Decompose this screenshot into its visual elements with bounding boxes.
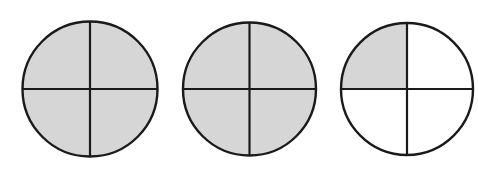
- circle-1: [22, 22, 157, 157]
- circle-3: [341, 23, 473, 155]
- circle-2: [183, 23, 316, 156]
- fraction-circles-diagram: [0, 0, 478, 172]
